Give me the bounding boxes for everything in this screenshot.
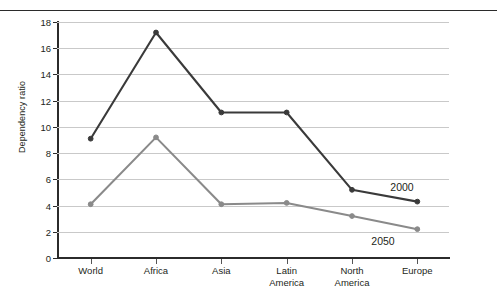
data-point: [154, 135, 159, 140]
series-line-2000: [91, 32, 418, 201]
x-tick-mark: [221, 259, 222, 264]
x-tick-mark: [417, 259, 418, 264]
data-point: [219, 110, 224, 115]
x-tick-mark: [287, 259, 288, 264]
data-point: [350, 187, 355, 192]
data-point: [154, 30, 159, 35]
data-point: [284, 110, 289, 115]
data-point: [415, 227, 420, 232]
data-point: [350, 214, 355, 219]
data-point: [219, 202, 224, 207]
x-tick-mark: [156, 259, 157, 264]
x-tick-mark: [91, 259, 92, 264]
x-tick-label: Europe: [371, 265, 463, 277]
x-tick-label-line: America: [306, 277, 398, 289]
x-tick-label-line: Europe: [371, 265, 463, 277]
series-label-2000: 2000: [390, 181, 413, 193]
series-line-2050: [91, 137, 418, 229]
chart-series-layer: [0, 0, 497, 297]
data-point: [88, 202, 93, 207]
chart-figure: Dependency ratio 024681012141618 WorldAf…: [0, 0, 497, 297]
data-point: [415, 199, 420, 204]
series-label-2050: 2050: [371, 235, 394, 247]
data-point: [88, 136, 93, 141]
data-point: [284, 201, 289, 206]
x-tick-mark: [352, 259, 353, 264]
